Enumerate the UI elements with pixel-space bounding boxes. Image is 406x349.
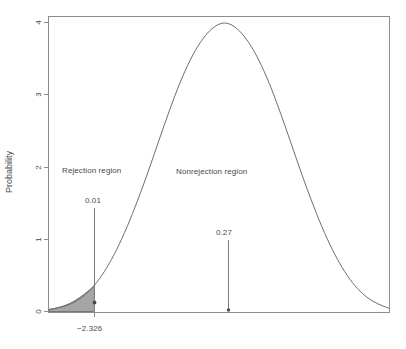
y-axis-ticks	[44, 23, 49, 312]
x-tick-label-critical-value: −2.326	[77, 324, 102, 333]
beta-annotation-arrow	[227, 240, 230, 312]
y-tick-label-3: 3	[34, 88, 43, 102]
y-tick-label-2: 2	[34, 161, 43, 175]
nonrejection-region-label: Nonrejection region	[176, 167, 247, 176]
y-tick-label-1: 1	[34, 233, 43, 247]
y-tick-label-0: 0	[34, 305, 43, 319]
rejection-region-label: Rejection region	[62, 166, 121, 175]
rejection-region-shading	[49, 286, 94, 312]
statistics-figure: 4 3 2 1 0 Probability −2.326 Rejection r…	[0, 0, 406, 349]
y-tick-label-4: 4	[34, 16, 43, 30]
beta-value-label: 0.27	[216, 228, 232, 237]
y-axis-title: Probability	[4, 132, 14, 212]
alpha-value-label: 0.01	[85, 196, 101, 205]
plot-box	[49, 17, 390, 313]
